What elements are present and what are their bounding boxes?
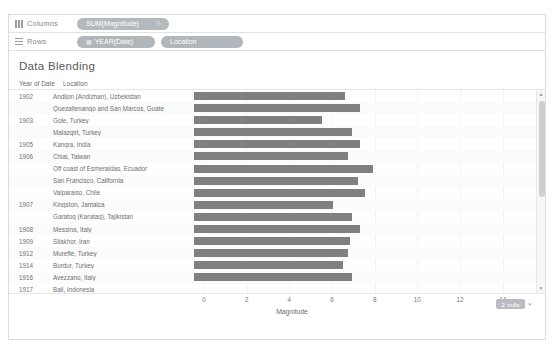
- table-column-headers: Year of Date Location: [9, 76, 545, 87]
- axis-tick-label: 8: [373, 296, 377, 303]
- row-bar-cell: [194, 126, 536, 138]
- row-bar-cell: [194, 114, 536, 126]
- table-row[interactable]: 1902Andijon (Andizhan), Uzbekistan: [9, 90, 536, 102]
- table-row[interactable]: Valparaiso, Chile: [9, 187, 536, 199]
- columns-shelf-label: Columns: [15, 19, 77, 28]
- chevron-down-icon[interactable]: ▾: [528, 302, 531, 307]
- bar-mark[interactable]: [194, 104, 360, 112]
- bar-mark[interactable]: [194, 273, 352, 281]
- columns-shelf[interactable]: Columns SUM(Magnitude) ⠿: [9, 15, 545, 33]
- x-axis: 02468101214: [9, 293, 545, 307]
- row-location: Messina, Italy: [53, 226, 194, 233]
- table-row[interactable]: 1908Messina, Italy: [9, 223, 536, 235]
- row-bar-cell: [194, 199, 536, 211]
- vertical-scrollbar[interactable]: ▲ ▼: [536, 90, 545, 293]
- table-row[interactable]: Garatog (Karatag), Tajikistan: [9, 211, 536, 223]
- pill-drag-handle-icon: ⠿: [156, 20, 160, 27]
- row-location: Murefte, Turkey: [53, 250, 194, 257]
- bar-mark[interactable]: [194, 92, 345, 100]
- row-location: San Francisco, California: [53, 177, 194, 184]
- row-location: Chiai, Taiwan: [53, 153, 194, 160]
- axis-tick-label: 12: [456, 296, 463, 303]
- row-year: 1916: [9, 274, 53, 281]
- table-row[interactable]: 1903Gole, Turkey: [9, 114, 536, 126]
- columns-shelf-text: Columns: [27, 19, 58, 28]
- plot-body: 1902Andijon (Andizhan), UzbekistanQuezal…: [9, 89, 545, 293]
- bar-mark[interactable]: [194, 116, 322, 124]
- header-location: Location: [63, 80, 88, 87]
- bar-mark[interactable]: [194, 140, 360, 148]
- scroll-up-icon[interactable]: ▲: [537, 90, 545, 99]
- row-location: Gole, Turkey: [53, 117, 194, 124]
- pill-location[interactable]: Location: [161, 36, 243, 48]
- bar-mark[interactable]: [194, 249, 348, 257]
- row-bar-cell: [194, 223, 536, 235]
- table-row[interactable]: 1917Bali, Indonesia: [9, 284, 536, 294]
- row-bar-cell: [194, 284, 536, 294]
- bar-mark[interactable]: [194, 201, 333, 209]
- axis-tick-label: 4: [288, 296, 292, 303]
- bar-mark[interactable]: [194, 152, 348, 160]
- table-row[interactable]: Malazgirt, Turkey: [9, 126, 536, 138]
- bar-mark[interactable]: [194, 128, 352, 136]
- bar-mark[interactable]: [194, 189, 365, 197]
- table-row[interactable]: 1906Chiai, Taiwan: [9, 150, 536, 162]
- table-row[interactable]: San Francisco, California: [9, 175, 536, 187]
- table-row[interactable]: 1905Kangra, India: [9, 138, 536, 150]
- row-location: Quezaltenango and San Marcos, Guate: [53, 105, 194, 112]
- bar-mark[interactable]: [194, 165, 373, 173]
- bar-mark[interactable]: [194, 177, 358, 185]
- row-location: Kingston, Jamaica: [53, 201, 194, 208]
- bar-mark[interactable]: [194, 237, 350, 245]
- table-row[interactable]: 1907Kingston, Jamaica: [9, 199, 536, 211]
- table-row[interactable]: 1916Avezzano, Italy: [9, 271, 536, 283]
- row-year: 1908: [9, 226, 53, 233]
- axis-tick-label: 0: [202, 296, 206, 303]
- row-bar-cell: [194, 235, 536, 247]
- scroll-down-icon[interactable]: ▼: [537, 284, 545, 293]
- rows-icon: [15, 38, 23, 46]
- row-bar-cell: [194, 175, 536, 187]
- rows-shelf[interactable]: Rows ▦ YEAR(Date) Location: [9, 33, 545, 51]
- scrollbar-thumb[interactable]: [539, 101, 545, 197]
- table-row[interactable]: Quezaltenango and San Marcos, Guate: [9, 102, 536, 114]
- table-row[interactable]: Off coast of Esmeraldas, Ecuador: [9, 163, 536, 175]
- pill-sum-magnitude[interactable]: SUM(Magnitude) ⠿: [77, 18, 169, 30]
- null-indicator[interactable]: 2 nulls ▾: [496, 299, 531, 309]
- pill-year-date-label: YEAR(Date): [95, 38, 134, 45]
- row-year: 1902: [9, 93, 53, 100]
- bar-mark[interactable]: [194, 261, 343, 269]
- row-year: 1903: [9, 117, 53, 124]
- row-location: Andijon (Andizhan), Uzbekistan: [53, 93, 194, 100]
- row-location: Burdur, Turkey: [53, 262, 194, 269]
- row-location: Bali, Indonesia: [53, 286, 194, 293]
- row-year: 1909: [9, 238, 53, 245]
- row-year: 1907: [9, 201, 53, 208]
- bar-mark[interactable]: [194, 225, 360, 233]
- row-year: 1905: [9, 141, 53, 148]
- table-row[interactable]: 1912Murefte, Turkey: [9, 247, 536, 259]
- table-row[interactable]: 1909Silakhor, Iran: [9, 235, 536, 247]
- row-bar-cell: [194, 90, 536, 102]
- row-location: Malazgirt, Turkey: [53, 129, 194, 136]
- pill-location-label: Location: [170, 38, 196, 45]
- status-badge[interactable]: 2 nulls: [496, 299, 526, 309]
- pill-year-date[interactable]: ▦ YEAR(Date): [77, 36, 155, 48]
- row-location: Off coast of Esmeraldas, Ecuador: [53, 165, 194, 172]
- rows-shelf-label: Rows: [15, 37, 77, 46]
- row-bar-cell: [194, 211, 536, 223]
- row-year: 1917: [9, 286, 53, 293]
- bar-mark[interactable]: [194, 213, 352, 221]
- table-row[interactable]: 1914Burdur, Turkey: [9, 259, 536, 271]
- row-bar-cell: [194, 150, 536, 162]
- row-location: Valparaiso, Chile: [53, 189, 194, 196]
- axis-tick-label: 2: [245, 296, 249, 303]
- row-location: Kangra, India: [53, 141, 194, 148]
- rows-shelf-text: Rows: [27, 37, 47, 46]
- row-location: Silakhor, Iran: [53, 238, 194, 245]
- row-bar-cell: [194, 259, 536, 271]
- header-year-of-date: Year of Date: [19, 80, 63, 87]
- row-year: 1906: [9, 153, 53, 160]
- row-year: 1912: [9, 250, 53, 257]
- axis-tick-label: 10: [414, 296, 421, 303]
